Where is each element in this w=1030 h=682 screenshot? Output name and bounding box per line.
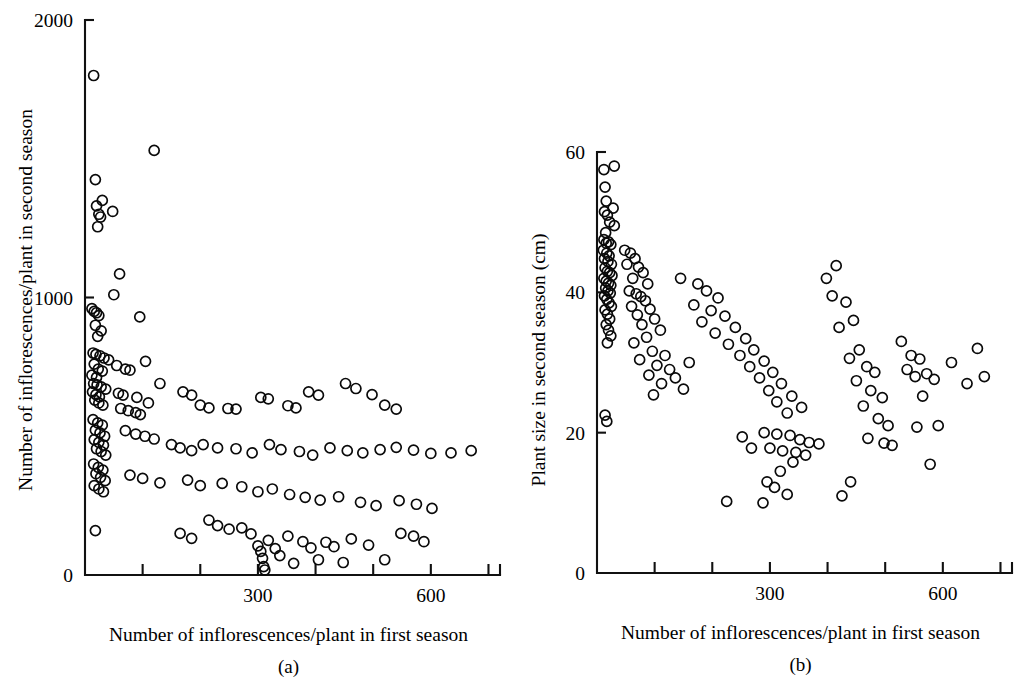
data-point [775,466,785,476]
data-point [267,484,277,494]
data-point [306,543,316,553]
data-point [637,320,647,330]
data-point [90,175,100,185]
data-point [770,482,780,492]
data-point [804,437,814,447]
data-point [213,443,223,453]
data-point [782,408,792,418]
y-tick-label: 20 [566,423,586,444]
data-point [643,279,653,289]
data-point [758,498,768,508]
data-point [684,358,694,368]
data-point [929,374,939,384]
data-point [351,384,361,394]
data-point [608,203,618,213]
data-point [655,325,665,335]
data-point [175,443,185,453]
figure-container: 010002000300600Number of inflorescences/… [0,0,1030,682]
data-point [198,440,208,450]
data-point [854,345,864,355]
scatter-plot-a: 010002000300600Number of inflorescences/… [0,0,515,682]
data-point [652,360,662,370]
x-axis-title: Number of inflorescences/plant in first … [621,622,980,643]
y-axis-title: Number of inflorescences/plant in second… [15,109,36,491]
data-point [642,332,652,342]
data-point [600,410,610,420]
data-point [678,384,688,394]
data-point [237,523,247,533]
y-tick-label: 60 [566,142,586,163]
data-point [713,293,723,303]
data-point [427,503,437,513]
data-point [609,161,619,171]
data-point [918,391,928,401]
data-point [644,370,654,380]
data-point [409,531,419,541]
data-point [629,338,639,348]
data-point [650,314,660,324]
data-point [848,315,858,325]
data-point [814,439,824,449]
data-point [315,495,325,505]
data-point [962,379,972,389]
data-point [647,346,657,356]
data-point [764,386,774,396]
panel-a: 010002000300600Number of inflorescences/… [0,0,515,682]
data-point [313,555,323,565]
data-point [844,353,854,363]
data-point [120,426,130,436]
data-point [910,372,920,382]
data-point [300,492,310,502]
data-point [776,379,786,389]
data-point [396,528,406,538]
data-point [391,442,401,452]
data-point [289,558,299,568]
data-point [635,355,645,365]
x-axis-title: Number of inflorescences/plant in first … [109,624,468,645]
data-point [426,448,436,458]
data-point [294,447,304,457]
data-point [149,434,159,444]
data-point [325,443,335,453]
data-point [304,387,314,397]
data-points [598,161,989,508]
data-point [356,497,366,507]
data-point [912,422,922,432]
data-point [745,362,755,372]
data-point [797,402,807,412]
data-point [628,273,638,283]
data-point [283,531,293,541]
data-point [237,482,247,492]
data-point [125,470,135,480]
data-point [737,432,747,442]
y-axis-title: Plant size in second season (cm) [528,234,550,487]
data-point [175,528,185,538]
data-point [622,259,632,269]
data-point [858,401,868,411]
data-point [827,291,837,301]
data-point [768,367,778,377]
data-point [600,182,610,192]
panel-caption: (a) [278,656,299,678]
data-point [217,478,227,488]
data-point [735,350,745,360]
data-point [765,443,775,453]
data-point [247,448,257,458]
data-point [90,526,100,536]
data-point [419,537,429,547]
data-point [599,165,609,175]
data-point [870,367,880,377]
data-point [645,304,655,314]
panel-b: 0204060300600Number of inflorescences/pl… [515,0,1030,682]
data-point [851,376,861,386]
data-point [841,297,851,307]
data-point [375,445,385,455]
plot-area: 010002000300600Number of inflorescences/… [15,10,500,678]
data-point [831,261,841,271]
data-point [741,334,751,344]
data-point [96,212,106,222]
data-point [785,430,795,440]
data-point [141,356,151,366]
data-point [253,487,263,497]
data-point [946,358,956,368]
